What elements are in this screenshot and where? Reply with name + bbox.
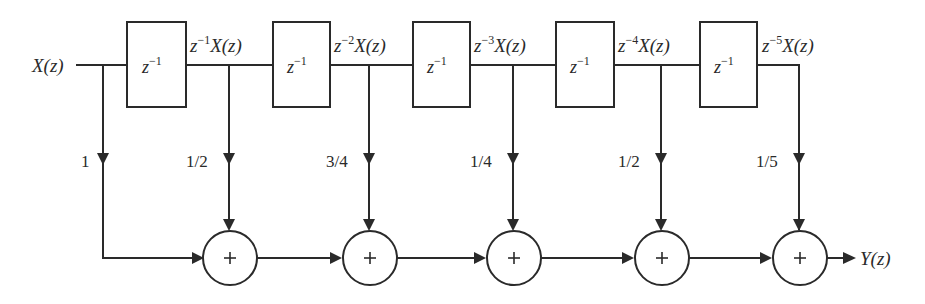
fir-filter-diagram: X(z) z−1 z−1 z−1 z−1 z−1 z−1X(z) z−2X(z)… (0, 0, 925, 304)
arrow-into-sum-3-top (507, 219, 519, 231)
delay-block-4: z−1 (556, 22, 614, 107)
delay-block-1: z−1 (127, 22, 186, 107)
gain-arrow-3 (507, 153, 519, 165)
gain-label-0: 1 (81, 152, 90, 171)
tap-label-3: z−3X(z) (473, 33, 526, 57)
output-arrow (843, 252, 856, 264)
summer-3 (487, 231, 541, 285)
tap-label-2: z−2X(z) (333, 33, 386, 57)
tap-label-5: z−5X(z) (761, 33, 814, 57)
summer-5 (773, 231, 827, 285)
arrow-into-sum-2-top (363, 219, 375, 231)
output-label: Y(z) (860, 248, 891, 270)
gain-arrow-5 (793, 153, 805, 165)
arrow-into-sum-1-top (223, 219, 235, 231)
tap-label-1: z−1X(z) (189, 33, 242, 57)
gain-label-1: 1/2 (186, 152, 208, 171)
arrow-into-sum-5-left (760, 252, 772, 264)
gain-label-2: 3/4 (326, 152, 348, 171)
summer-2 (343, 231, 397, 285)
arrow-into-sum-4-top (655, 219, 667, 231)
arrow-into-sum-2-left (330, 252, 342, 264)
tap-label-4: z−4X(z) (617, 33, 670, 57)
gain-label-5: 1/5 (756, 152, 778, 171)
arrow-into-sum-4-left (622, 252, 634, 264)
input-label: X(z) (31, 55, 64, 77)
arrow-into-sum-5-top (793, 219, 805, 231)
gain-arrow-1 (223, 153, 235, 165)
arrow-into-sum-3-left (474, 252, 486, 264)
summer-4 (635, 231, 689, 285)
delay-block-3: z−1 (413, 22, 470, 107)
gain-arrow-0 (97, 153, 109, 165)
gain-arrow-2 (363, 153, 375, 165)
gain-label-3: 1/4 (470, 152, 492, 171)
gain-label-4: 1/2 (618, 152, 640, 171)
wire-d5-tap (757, 65, 799, 230)
summer-1 (203, 231, 257, 285)
delay-block-2: z−1 (273, 22, 330, 107)
delay-block-5: z−1 (700, 22, 757, 107)
gain-arrow-4 (655, 153, 667, 165)
